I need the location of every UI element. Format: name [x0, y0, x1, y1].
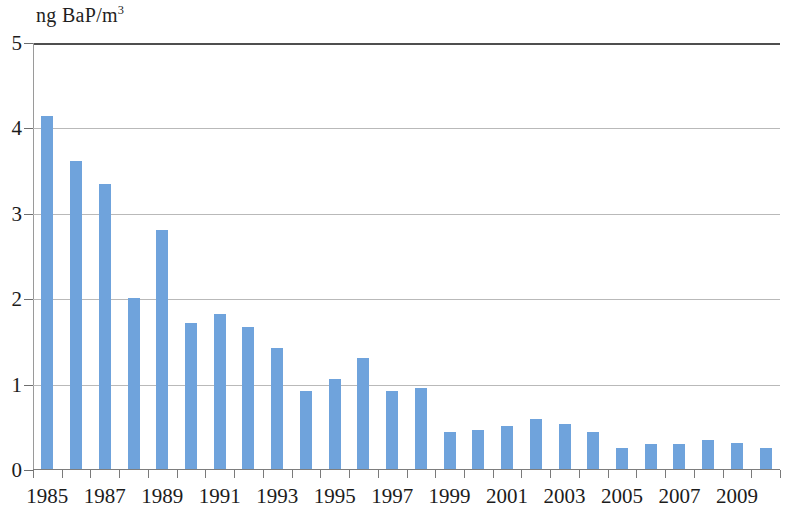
- bar: [128, 298, 140, 471]
- bar: [673, 444, 685, 470]
- bar: [559, 424, 571, 470]
- x-tick-label: 1995: [314, 482, 356, 510]
- bar: [415, 388, 427, 470]
- bar: [760, 448, 772, 470]
- x-tick-mark: [521, 470, 522, 478]
- x-tick-label: 2009: [716, 482, 758, 510]
- y-tick-label: 4: [12, 118, 23, 139]
- x-tick-label: 1989: [141, 482, 183, 510]
- x-tick-label: 1997: [371, 482, 413, 510]
- x-tick-mark: [694, 470, 695, 478]
- x-tick-mark: [407, 470, 408, 478]
- y-tick-label: 5: [12, 33, 23, 54]
- bar: [731, 443, 743, 470]
- y-tick-mark: [24, 214, 33, 215]
- y-tick-mark: [24, 299, 33, 300]
- y-tick-label: 0: [12, 460, 23, 481]
- x-tick-mark: [665, 470, 666, 478]
- x-tick-label: 1991: [199, 482, 241, 510]
- x-tick-mark: [177, 470, 178, 478]
- y-axis-unit-label: ng BaP/m3: [36, 2, 124, 28]
- bar: [300, 391, 312, 470]
- bar: [386, 391, 398, 470]
- bar: [70, 161, 82, 470]
- x-tick-mark: [550, 470, 551, 478]
- bar: [99, 184, 111, 470]
- y-axis-unit-exponent: 3: [118, 3, 125, 17]
- x-axis-ticks: [33, 470, 780, 480]
- x-tick-mark: [33, 470, 34, 478]
- x-tick-mark: [234, 470, 235, 478]
- x-tick-mark: [148, 470, 149, 478]
- x-tick-label: 2003: [544, 482, 586, 510]
- bar: [472, 430, 484, 470]
- y-tick-mark: [24, 43, 33, 44]
- bar: [530, 419, 542, 470]
- plot-area: 012345: [33, 43, 780, 470]
- x-tick-mark: [636, 470, 637, 478]
- x-tick-label: 1993: [256, 482, 298, 510]
- x-tick-mark: [62, 470, 63, 478]
- bar: [242, 327, 254, 470]
- x-tick-mark: [119, 470, 120, 478]
- x-tick-mark: [263, 470, 264, 478]
- y-tick-mark: [24, 470, 33, 471]
- x-tick-mark: [579, 470, 580, 478]
- x-tick-label: 1987: [84, 482, 126, 510]
- y-tick-mark: [24, 385, 33, 386]
- x-tick-label: 2005: [601, 482, 643, 510]
- x-tick-mark: [751, 470, 752, 478]
- bar-chart: ng BaP/m3 012345 19851987198919911993199…: [0, 0, 788, 515]
- x-tick-mark: [493, 470, 494, 478]
- x-tick-mark: [378, 470, 379, 478]
- x-tick-label: 2007: [658, 482, 700, 510]
- bar: [702, 440, 714, 470]
- x-tick-mark: [780, 470, 781, 478]
- bar: [444, 432, 456, 470]
- bar: [501, 426, 513, 470]
- bar: [271, 348, 283, 470]
- x-tick-mark: [292, 470, 293, 478]
- y-axis-unit-text: ng BaP/m: [36, 4, 118, 26]
- bars-container: [33, 43, 780, 470]
- bar: [616, 448, 628, 470]
- bar: [329, 379, 341, 470]
- x-tick-mark: [464, 470, 465, 478]
- x-tick-mark: [90, 470, 91, 478]
- x-tick-label: 1999: [429, 482, 471, 510]
- bar: [156, 230, 168, 470]
- x-tick-label: 1985: [26, 482, 68, 510]
- y-tick-mark: [24, 128, 33, 129]
- bar: [185, 323, 197, 470]
- x-tick-mark: [349, 470, 350, 478]
- x-tick-mark: [205, 470, 206, 478]
- bar: [41, 116, 53, 470]
- y-tick-label: 1: [12, 374, 23, 395]
- y-tick-label: 3: [12, 203, 23, 224]
- x-axis-labels: 1985198719891991199319951997199920012003…: [33, 482, 780, 515]
- x-tick-mark: [320, 470, 321, 478]
- bar: [587, 432, 599, 470]
- x-tick-label: 2001: [486, 482, 528, 510]
- x-tick-mark: [608, 470, 609, 478]
- bar: [645, 444, 657, 470]
- bar: [214, 314, 226, 470]
- y-tick-label: 2: [12, 289, 23, 310]
- x-tick-mark: [435, 470, 436, 478]
- bar: [357, 358, 369, 470]
- x-tick-mark: [723, 470, 724, 478]
